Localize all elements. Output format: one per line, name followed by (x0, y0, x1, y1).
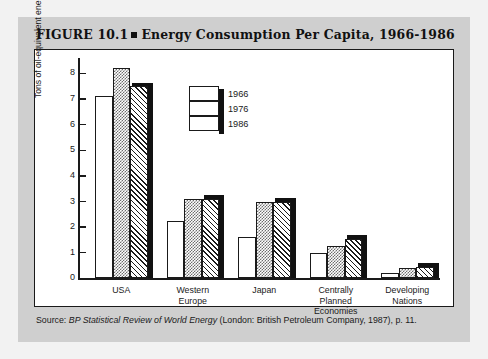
legend-swatch-1976 (189, 101, 219, 116)
bar-developing-nations-1986 (416, 267, 434, 279)
legend-label-1976: 1976 (228, 104, 248, 114)
y-tick-label: 6 (59, 119, 75, 129)
bar-centrally-planned-economies-1986 (345, 239, 363, 279)
legend-label-1986: 1986 (228, 119, 248, 129)
x-tick-label-line: Developing (367, 285, 447, 295)
y-tick-mark (80, 150, 86, 151)
source-prefix: Source: (36, 315, 66, 325)
y-tick-label: 0 (59, 272, 75, 282)
y-tick-label: 2 (59, 221, 75, 231)
y-tick-label: 8 (59, 67, 75, 77)
x-tick-label-centrally-planned-economies: CentrallyPlannedEconomies (296, 285, 376, 316)
bar-japan-1986 (273, 202, 291, 279)
y-tick-mark (80, 252, 86, 253)
bar-usa-1976 (113, 68, 131, 278)
y-tick-mark (80, 98, 86, 99)
bar-group-shadow (148, 83, 153, 279)
bar-group-shadow-top (418, 263, 439, 267)
y-tick-label: 1 (59, 247, 75, 257)
x-tick-label-japan: Japan (224, 285, 304, 295)
bar-japan-1976 (256, 202, 274, 279)
y-tick-mark (80, 278, 86, 279)
x-tick-label-usa: USA (81, 285, 161, 295)
x-tick-label-line: Nations (367, 296, 447, 306)
x-tick-label-western-europe: WesternEurope (153, 285, 233, 306)
y-tick-mark (80, 201, 86, 202)
bar-centrally-planned-economies-1966 (310, 253, 328, 279)
legend-shadow (219, 89, 224, 134)
legend-swatch-1966 (189, 86, 219, 101)
chart-plot-area: Tons of oil-equivalent energy 012345678 … (34, 49, 454, 307)
bar-group-shadow-top (204, 195, 225, 199)
bar-group-shadow-top (132, 83, 153, 87)
legend-label-1966: 1966 (228, 89, 248, 99)
bar-developing-nations-1976 (399, 268, 417, 278)
figure-title-text: Energy Consumption Per Capita, 1966-1986 (141, 27, 454, 42)
bar-group-shadow (362, 235, 367, 278)
bar-group-shadow-top (347, 235, 368, 239)
bar-usa-1986 (130, 86, 148, 278)
figure-box: FIGURE 10.1Energy Consumption Per Capita… (18, 17, 470, 342)
y-tick-label: 5 (59, 144, 75, 154)
x-tick-label-line: USA (81, 285, 161, 295)
bar-japan-1966 (238, 237, 256, 278)
source-publication-details: (London: British Petroleum Company, 1987… (220, 315, 417, 325)
x-tick-label-developing-nations: DevelopingNations (367, 285, 447, 306)
y-tick-mark (80, 124, 86, 125)
bar-western-europe-1966 (167, 221, 185, 279)
source-note: Source: BP Statistical Review of World E… (36, 315, 417, 325)
y-tick-label: 4 (59, 170, 75, 180)
bar-western-europe-1976 (184, 199, 202, 278)
x-tick-label-line: Japan (224, 285, 304, 295)
y-tick-mark (80, 73, 86, 74)
square-bullet-icon (131, 32, 137, 38)
x-tick-label-line: Planned (296, 296, 376, 306)
legend-swatch-1986 (189, 116, 219, 131)
bar-western-europe-1986 (202, 199, 220, 278)
y-tick-mark (80, 226, 86, 227)
bar-centrally-planned-economies-1976 (327, 246, 345, 278)
y-tick-mark (80, 175, 86, 176)
bar-group-shadow-top (275, 198, 296, 202)
x-axis-line (78, 278, 440, 280)
bar-group-shadow (291, 198, 296, 278)
figure-number: FIGURE 10.1 (36, 27, 128, 42)
source-publication-title: BP Statistical Review of World Energy (69, 315, 217, 325)
y-axis-line (78, 58, 80, 280)
y-tick-label: 3 (59, 196, 75, 206)
x-tick-label-line: Europe (153, 296, 233, 306)
figure-title: FIGURE 10.1Energy Consumption Per Capita… (36, 27, 455, 42)
bar-developing-nations-1966 (381, 273, 399, 278)
y-axis-title: Tons of oil-equivalent energy (33, 0, 43, 98)
y-tick-label: 7 (59, 93, 75, 103)
bar-group-shadow (219, 195, 224, 278)
bar-usa-1966 (95, 96, 113, 278)
x-tick-label-line: Centrally (296, 285, 376, 295)
x-tick-label-line: Western (153, 285, 233, 295)
